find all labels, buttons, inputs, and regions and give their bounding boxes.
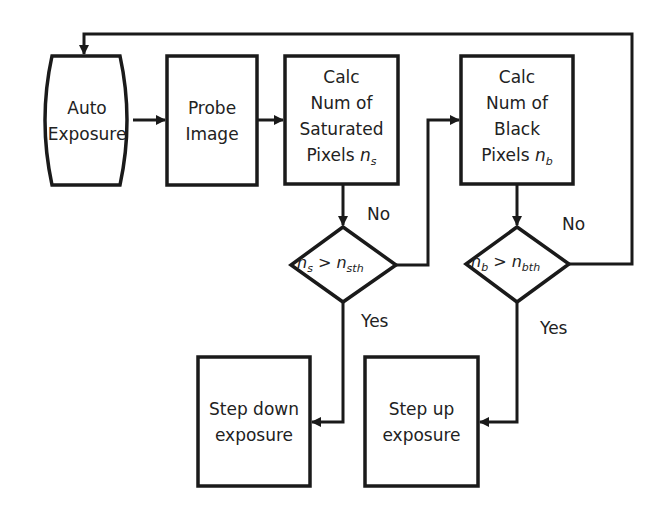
node-step-down: Step down exposure — [198, 357, 310, 486]
calc-black-pixels-text: Pixels — [481, 145, 529, 165]
calc-black-line2: Num of — [486, 90, 548, 116]
auto-exposure-line1: Auto — [67, 95, 106, 121]
cond-black-lhs: n — [471, 252, 481, 271]
var-ns-sub: s — [371, 156, 377, 169]
cond-sat-lhs: n — [297, 253, 307, 272]
step-up-line2: exposure — [382, 422, 460, 448]
var-nb-base: n — [535, 145, 546, 165]
edge-black-yes-to-step-up — [480, 302, 517, 422]
node-auto-exposure: Auto Exposure — [40, 56, 134, 185]
label-sat-yes: Yes — [361, 311, 388, 331]
calc-saturated-line1: Calc — [323, 64, 359, 90]
label-black-yes: Yes — [540, 318, 567, 338]
calc-saturated-line2: Num of — [311, 90, 373, 116]
var-ns-base: n — [360, 145, 371, 165]
edge-sat-yes-to-step-down — [312, 302, 343, 422]
step-down-line1: Step down — [209, 396, 299, 422]
cond-black-rhs: n — [512, 252, 522, 271]
cond-sat-rhs-sub: sth — [347, 262, 364, 275]
var-nb: nb — [535, 145, 553, 165]
probe-image-line2: Image — [185, 121, 238, 147]
node-calc-saturated: Calc Num of Saturated Pixels ns — [285, 56, 398, 184]
decision-black-condition: nb > nbth — [471, 252, 540, 274]
cond-black-lhs-sub: b — [481, 261, 488, 274]
step-down-line2: exposure — [215, 422, 293, 448]
cond-sat-lhs-sub: s — [307, 262, 313, 275]
node-calc-black: Calc Num of Black Pixels nb — [461, 56, 573, 184]
calc-saturated-line3: Saturated — [300, 116, 384, 142]
label-sat-no: No — [367, 204, 390, 224]
cond-sat-rhs: n — [336, 253, 346, 272]
edge-sat-no-to-calc-black — [396, 120, 459, 265]
cond-black-rhs-sub: bth — [522, 261, 540, 274]
calc-black-line1: Calc — [499, 64, 535, 90]
cond-sat-op: > — [318, 253, 331, 272]
decision-saturated-condition: ns > nsth — [297, 253, 364, 275]
var-ns: ns — [360, 145, 377, 165]
calc-saturated-line4: Pixels ns — [306, 142, 376, 175]
probe-image-line1: Probe — [188, 95, 236, 121]
cond-black-op: > — [493, 252, 506, 271]
step-up-line1: Step up — [389, 396, 455, 422]
label-black-no: No — [562, 214, 585, 234]
node-step-up: Step up exposure — [365, 357, 478, 486]
calc-black-line3: Black — [494, 116, 540, 142]
var-nb-sub: b — [546, 156, 553, 169]
calc-black-line4: Pixels nb — [481, 142, 552, 175]
node-probe-image: Probe Image — [167, 56, 257, 185]
calc-saturated-pixels-text: Pixels — [306, 145, 354, 165]
auto-exposure-line2: Exposure — [48, 121, 127, 147]
